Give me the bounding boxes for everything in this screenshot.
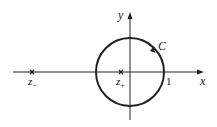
tick-label-one: 1 <box>166 75 172 87</box>
contour-label: C <box>158 39 167 53</box>
y-axis-arrow-icon <box>128 12 133 19</box>
x-axis-label: x <box>199 74 206 88</box>
contour-diagram: y x C 1 z− z+ <box>0 0 217 127</box>
pole-label-z-plus: z+ <box>115 75 125 90</box>
y-axis-label: y <box>117 8 124 22</box>
pole-label-z-minus: z− <box>27 75 37 90</box>
